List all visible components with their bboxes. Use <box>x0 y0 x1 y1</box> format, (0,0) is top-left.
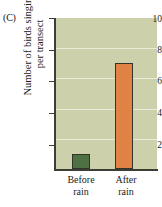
y-tick-6 <box>49 81 55 82</box>
x-category-label-after-rain-line-1: After <box>100 174 152 186</box>
bar-before-rain <box>72 154 90 169</box>
y-tick-2 <box>49 145 55 146</box>
x-category-label-after-rain-line-2: rain <box>100 186 152 198</box>
y-tick-label-8: 8 <box>118 45 162 55</box>
y-axis-title-line-2: per transect <box>34 20 46 69</box>
y-axis-title: Number of birds singing per transect <box>14 0 54 118</box>
y-tick-label-2: 2 <box>118 140 162 150</box>
y-axis-title-line-1: Number of birds singing <box>22 0 34 95</box>
y-tick-8 <box>49 50 55 51</box>
x-category-label-after-rain: After rain <box>100 174 152 197</box>
x-axis-line <box>54 169 158 171</box>
y-axis-line <box>54 18 56 170</box>
y-tick-label-6: 6 <box>118 76 162 86</box>
y-tick-10 <box>49 18 55 19</box>
figure-panel-c: (C) Number of birds singing per transect… <box>0 0 162 207</box>
y-tick-4 <box>49 113 55 114</box>
y-tick-label-4: 4 <box>118 108 162 118</box>
y-tick-label-10: 10 <box>118 14 162 24</box>
